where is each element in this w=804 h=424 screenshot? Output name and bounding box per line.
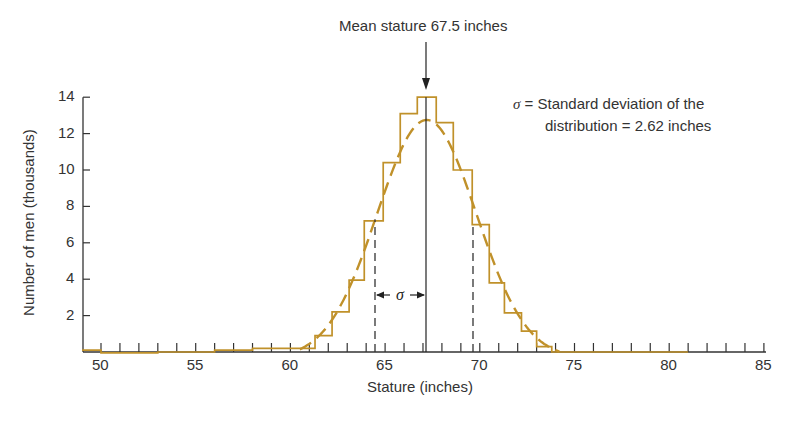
x-tick-label: 50 <box>92 356 109 373</box>
x-tick-label: 75 <box>566 356 583 373</box>
x-axis-label: Stature (inches) <box>367 378 473 395</box>
x-tick-label: 55 <box>187 356 204 373</box>
std-dev-annotation: σ = Standard deviation of the distributi… <box>513 93 711 136</box>
y-tick-label: 2 <box>66 306 74 323</box>
y-axis-label: Number of men (thousands) <box>20 113 37 333</box>
normal-curve <box>300 120 559 352</box>
histogram-chart: σ <box>0 0 804 424</box>
x-tick-label: 60 <box>281 356 298 373</box>
sigma-symbol: σ <box>513 96 520 112</box>
x-tick-label: 65 <box>376 356 393 373</box>
annotation-line-2: distribution = 2.62 inches <box>513 115 711 136</box>
y-tick-label: 10 <box>58 160 75 177</box>
annotation-line-1: = Standard deviation of the <box>525 95 705 112</box>
sigma-arrowhead-left <box>376 292 384 299</box>
y-tick-label: 8 <box>66 196 74 213</box>
sigma-arrowhead-right <box>417 292 425 299</box>
y-tick-label: 4 <box>66 269 74 286</box>
y-tick-label: 12 <box>58 124 75 141</box>
x-tick-label: 85 <box>755 356 772 373</box>
x-tick-label: 70 <box>471 356 488 373</box>
y-tick-label: 6 <box>66 233 74 250</box>
y-tick-label: 14 <box>58 87 75 104</box>
x-tick-label: 80 <box>660 356 677 373</box>
chart-title: Mean stature 67.5 inches <box>339 17 507 34</box>
sigma-marker: σ <box>396 286 405 303</box>
mean-arrow-head <box>422 78 430 90</box>
